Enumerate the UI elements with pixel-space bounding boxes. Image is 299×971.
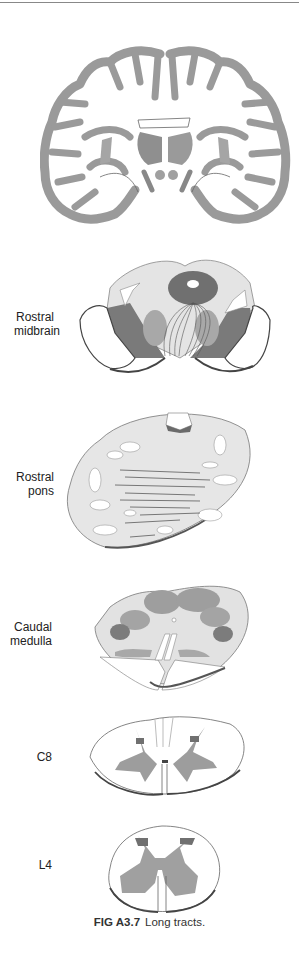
caption-text: Long tracts. xyxy=(145,916,205,928)
rostral-midbrain-diagram xyxy=(75,248,275,378)
caption-id: FIG A3.7 xyxy=(94,916,140,928)
label-rostral-pons: Rostral pons xyxy=(14,470,54,498)
figure-caption: FIG A3.7Long tracts. xyxy=(0,916,299,928)
caudal-medulla-diagram xyxy=(90,572,255,697)
label-caudal-medulla: Caudal medulla xyxy=(10,620,52,648)
c8-diagram xyxy=(85,712,250,802)
rostral-pons-diagram xyxy=(60,405,260,553)
top-rule xyxy=(0,2,299,3)
l4-diagram xyxy=(100,818,225,918)
coronal-brain-diagram xyxy=(40,42,299,232)
label-c8: C8 xyxy=(20,750,52,764)
label-l4: L4 xyxy=(20,858,52,872)
label-rostral-midbrain: Rostral midbrain xyxy=(14,310,54,338)
